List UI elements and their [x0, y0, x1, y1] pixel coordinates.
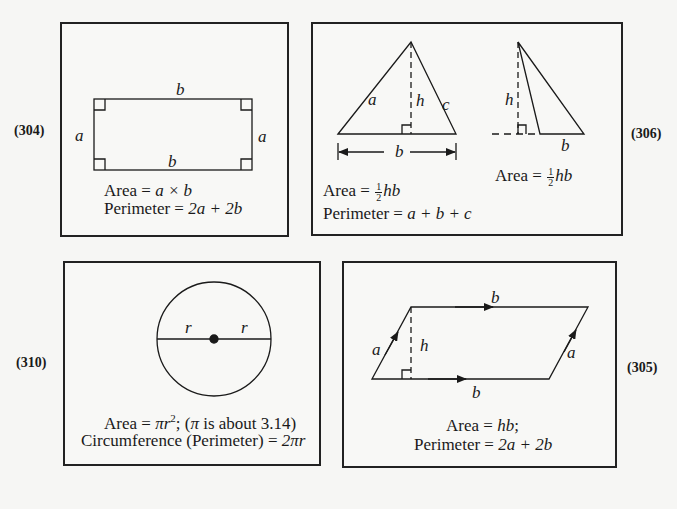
obtuse-triangle-area-formula: Area = 12hb — [495, 165, 572, 188]
right-angle-icon — [402, 370, 411, 379]
circle-figure — [157, 282, 271, 396]
para-label-right: a — [567, 343, 576, 362]
obtuse-label-b: b — [561, 136, 570, 155]
rect-label-left: a — [75, 126, 84, 145]
triangle-perimeter-formula: Perimeter = a + b + c — [323, 203, 472, 224]
rect-label-bottom: b — [168, 152, 177, 171]
triangle-area-formula: Area = 12hb — [323, 180, 400, 203]
right-angle-icon — [518, 125, 526, 134]
tri-label-b: b — [395, 142, 404, 161]
circle-label-r-right: r — [241, 318, 248, 337]
obtuse-triangle-figure — [492, 42, 584, 134]
parallelogram-figure — [372, 307, 588, 379]
para-label-bottom: b — [472, 383, 481, 402]
rect-label-right: a — [258, 127, 267, 146]
one-half-fraction: 12 — [547, 167, 554, 188]
right-angle-icon — [94, 99, 105, 110]
tri-label-a: a — [368, 90, 377, 109]
center-point-icon — [210, 335, 218, 343]
one-half-fraction: 12 — [375, 182, 382, 203]
circle-circumference-formula: Circumference (Perimeter) = 2πr — [81, 430, 305, 451]
parallelogram-perimeter-formula: Perimeter = 2a + 2b — [414, 434, 552, 455]
right-angle-icon — [402, 125, 411, 134]
tri-label-c: c — [442, 95, 450, 114]
rect-label-top: b — [176, 80, 185, 99]
parallelogram-area-formula: Area = hb; — [446, 415, 519, 436]
right-angle-icon — [94, 159, 105, 170]
rectangle-perimeter-formula: Perimeter = 2a + 2b — [104, 198, 242, 219]
para-label-h: h — [420, 336, 429, 355]
right-angle-icon — [241, 99, 252, 110]
circle-label-r-left: r — [185, 318, 192, 337]
obtuse-label-h: h — [505, 90, 514, 109]
right-angle-icon — [241, 159, 252, 170]
para-label-left: a — [372, 340, 381, 359]
para-label-top: b — [491, 288, 500, 307]
tri-label-h: h — [416, 91, 425, 110]
